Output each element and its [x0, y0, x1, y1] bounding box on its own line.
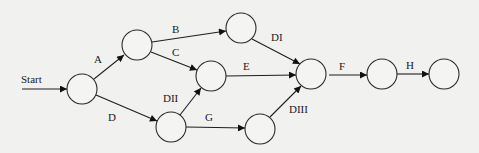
label-start: Start [21, 73, 42, 85]
label-f: F [339, 60, 345, 72]
label-e: E [243, 60, 250, 72]
label-h: H [406, 59, 414, 71]
label-b: B [172, 23, 179, 35]
label-a: A [94, 53, 102, 65]
edge-e [226, 75, 296, 76]
edge-b [152, 31, 226, 42]
edge-g [186, 127, 245, 128]
edge-d [96, 95, 157, 121]
label-dii: DII [163, 92, 179, 104]
label-g: G [205, 111, 213, 123]
node-5 [156, 112, 186, 142]
node-4 [196, 61, 226, 91]
node-3 [226, 13, 256, 43]
label-d: D [108, 111, 116, 123]
node-9 [429, 59, 459, 89]
edge-dii [180, 88, 201, 115]
network-diagram: Start A B C D DI E DII G DIII F H [0, 0, 479, 153]
node-8 [367, 59, 397, 89]
nodes [67, 13, 459, 144]
node-2 [122, 30, 152, 60]
label-di: DI [271, 31, 283, 43]
node-6 [245, 114, 275, 144]
label-c: C [172, 46, 179, 58]
node-1 [67, 74, 97, 104]
label-diii: DIII [289, 103, 308, 115]
node-7 [296, 59, 326, 89]
